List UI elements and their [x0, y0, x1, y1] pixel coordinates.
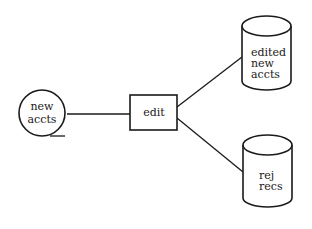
data-flow-diagram: new accts edit edited new accts rej recs: [0, 0, 312, 229]
disk-cylinder-top: [242, 16, 291, 36]
node-label-line: recs: [259, 180, 283, 193]
node-label-line: accts: [251, 68, 280, 81]
node-label-line: new: [30, 100, 54, 113]
node-rej-recs-disk: rej recs: [243, 135, 292, 207]
disk-cylinder-top: [243, 135, 292, 155]
node-edit-process: edit: [130, 95, 177, 130]
node-new-accts-tape: new accts: [19, 90, 65, 136]
node-label-line: edit: [143, 106, 165, 119]
node-edited-new-accts-disk: edited new accts: [242, 16, 291, 90]
edge-edit-to-rej-recs: [177, 118, 243, 172]
edge-edit-to-edited-new-accts: [177, 57, 242, 107]
node-label-line: accts: [28, 113, 57, 126]
